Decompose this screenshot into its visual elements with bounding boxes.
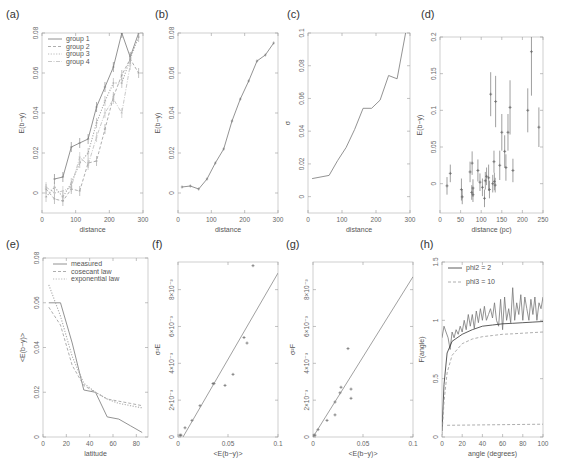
y-axis-label: <E(b−y)>: [19, 333, 27, 362]
y-tick-label: 0: [32, 191, 39, 195]
y-axis-label: σ²F: [289, 344, 296, 355]
y-axis-label: σ²E: [154, 344, 161, 356]
x-tick-label: 300: [405, 216, 416, 223]
y-tick-label: 0.04: [168, 106, 175, 119]
series-line: [46, 65, 130, 193]
y-tick-label: 0.08: [33, 251, 40, 264]
series-line: [442, 322, 543, 432]
y-tick-label: 0: [168, 191, 175, 195]
legend-entry: cosecant law: [71, 268, 112, 275]
x-tick-label: 20: [459, 440, 467, 447]
chart-c: 010020030000.020.040.060.080.1distanceσ: [284, 28, 416, 233]
y-tick-label: 0.04: [32, 106, 39, 119]
plot-frame: [43, 258, 148, 437]
series-line: [49, 307, 142, 406]
x-tick-label: 20: [63, 440, 71, 447]
x-axis-label: angle (degrees): [468, 450, 517, 458]
x-tick-label: 80: [519, 440, 527, 447]
y-tick-label: 6×10⁻³: [168, 315, 175, 337]
y-tick-label: 2×10⁻³: [303, 389, 310, 411]
series-line: [49, 303, 142, 433]
plot-frame: [178, 33, 278, 213]
x-tick-label: 0.1: [273, 440, 282, 447]
y-axis-label: E(b−y): [154, 113, 162, 134]
y-tick-label: 8×10⁻³: [168, 278, 175, 300]
chart-h: 02040608010000.511.5angle (degrees)F(ang…: [418, 257, 549, 458]
plot-frame: [313, 262, 413, 437]
x-tick-label: 0: [176, 216, 180, 223]
y-tick-label: 0: [430, 181, 437, 185]
x-tick-label: 50: [457, 216, 465, 223]
x-tick-label: 200: [371, 216, 382, 223]
y-tick-label: 0.06: [298, 92, 305, 105]
chart-f: 00.050.102×10⁻³4×10⁻³6×10⁻³8×10⁻³<E(b−y)…: [154, 262, 283, 458]
y-tick-label: 0.15: [430, 67, 437, 80]
legend-entry: measured: [71, 260, 102, 267]
fit-line: [183, 273, 278, 437]
plot-frame: [442, 262, 543, 437]
x-tick-label: 0: [440, 440, 444, 447]
x-tick-label: 80: [133, 440, 141, 447]
y-tick-label: 0.08: [32, 26, 39, 39]
x-tick-label: 300: [273, 216, 284, 223]
x-axis-label: distance: [215, 226, 241, 233]
x-tick-label: 0: [41, 440, 45, 447]
x-axis-label: <E(b−y)>: [214, 450, 243, 458]
plot-frame: [308, 33, 410, 213]
x-axis-label: distance: [346, 226, 372, 233]
chart-d: 05010015020025000.050.10.150.2distance (…: [416, 8, 549, 234]
y-tick-label: 0.1: [298, 28, 305, 37]
y-tick-label: 0.2: [430, 32, 437, 41]
y-tick-label: 0.02: [33, 386, 40, 399]
x-tick-label: 40: [479, 440, 487, 447]
y-tick-label: 0.02: [32, 146, 39, 159]
x-axis-label: latitude: [84, 450, 107, 457]
x-tick-label: 200: [517, 216, 528, 223]
y-tick-label: 0: [432, 435, 439, 439]
legend-entry: phi2 = 2: [466, 264, 491, 272]
x-tick-label: 100: [337, 216, 348, 223]
y-tick-label: 0.08: [168, 26, 175, 39]
x-tick-label: 300: [138, 216, 149, 223]
y-tick-label: 0.06: [32, 66, 39, 79]
y-tick-label: 8×10⁻³: [303, 278, 310, 300]
x-tick-label: 200: [104, 216, 115, 223]
y-tick-label: 0.02: [168, 146, 175, 159]
y-axis-label: E(b−y): [18, 113, 26, 134]
series-line: [312, 33, 406, 179]
series-line: [442, 288, 543, 350]
x-tick-label: 250: [538, 216, 549, 223]
x-tick-label: 0: [311, 440, 315, 447]
legend-entry: exponential law: [71, 275, 120, 283]
series-line: [182, 43, 274, 189]
y-tick-label: 0.06: [168, 66, 175, 79]
chart-a: 010020030000.020.040.060.08distanceE(b−y…: [18, 26, 149, 233]
y-tick-label: 1.5: [432, 257, 439, 266]
plot-frame: [178, 262, 278, 437]
series-line: [49, 285, 142, 408]
y-tick-label: 2×10⁻³: [168, 389, 175, 411]
x-tick-label: 100: [538, 440, 549, 447]
x-axis-label: <E(b−y)>: [349, 450, 378, 458]
x-tick-label: 100: [476, 216, 487, 223]
y-axis-label: σ: [284, 120, 291, 125]
y-tick-label: 0: [298, 194, 305, 198]
x-tick-label: 60: [499, 440, 507, 447]
y-tick-label: 0: [168, 435, 175, 439]
x-tick-label: 0: [438, 216, 442, 223]
chart-g: 00.050.102×10⁻³4×10⁻³6×10⁻³8×10⁻³<E(b−y)…: [289, 262, 418, 458]
x-tick-label: 100: [70, 216, 81, 223]
chart-b: 010020030000.020.040.060.08distanceE(b−y…: [154, 26, 284, 233]
y-tick-label: 4×10⁻³: [168, 352, 175, 374]
x-tick-label: 200: [239, 216, 250, 223]
y-tick-label: 0: [33, 435, 40, 439]
y-tick-label: 1: [432, 318, 439, 322]
series-line: [46, 37, 139, 197]
series-line: [46, 59, 139, 201]
x-tick-label: 0.05: [222, 440, 235, 447]
y-tick-label: 0.04: [33, 341, 40, 354]
y-tick-label: 0.05: [430, 140, 437, 153]
chart-e: 02040608000.020.040.060.08latitude<E(b−y…: [19, 251, 148, 457]
x-tick-label: 0: [306, 216, 310, 223]
legend-entry: phi3 = 10: [466, 278, 495, 286]
